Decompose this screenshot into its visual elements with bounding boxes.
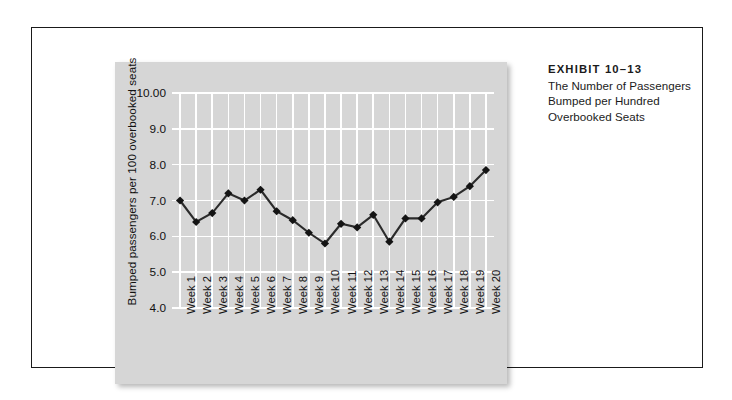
exhibit-frame: Bumped passengers per 100 overbooked sea… bbox=[31, 27, 703, 368]
y-axis-tick-label: 7.0 bbox=[150, 194, 166, 208]
caption-line-2: Bumped per Hundred bbox=[548, 93, 728, 108]
series-line bbox=[180, 170, 486, 243]
exhibit-caption: EXHIBIT 10–13 The Number of Passengers B… bbox=[548, 61, 728, 124]
y-axis-tick-label: 5.0 bbox=[150, 265, 166, 279]
y-axis-tick-label: 8.0 bbox=[150, 158, 166, 172]
y-axis-tick-label: 9.0 bbox=[150, 122, 166, 136]
caption-line-1: The Number of Passengers bbox=[548, 78, 728, 93]
plot-area: 10.009.08.07.06.05.04.0 Week 1Week 2Week… bbox=[172, 93, 494, 308]
chart-panel: Bumped passengers per 100 overbooked sea… bbox=[115, 62, 507, 384]
caption-eyebrow: EXHIBIT 10–13 bbox=[548, 61, 728, 77]
data-series bbox=[172, 93, 494, 308]
y-axis-tick-label: 4.0 bbox=[150, 301, 166, 315]
y-axis-tick-label: 10.00 bbox=[136, 86, 166, 100]
caption-line-3: Overbooked Seats bbox=[548, 109, 728, 124]
y-axis-tick-label: 6.0 bbox=[150, 229, 166, 243]
